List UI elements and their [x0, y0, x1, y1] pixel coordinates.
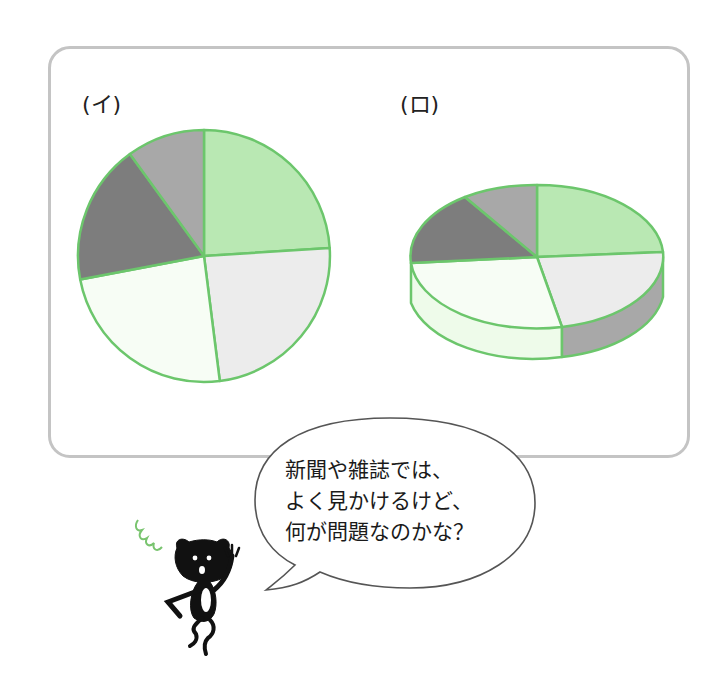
cat-character-icon [0, 0, 726, 673]
